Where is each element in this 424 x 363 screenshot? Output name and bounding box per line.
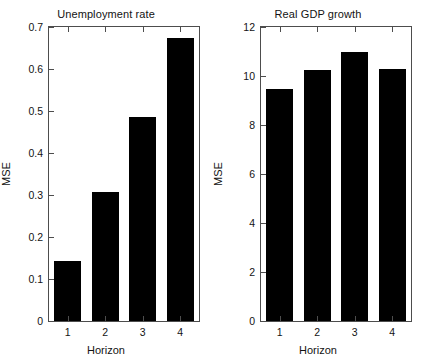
bar [92,192,119,321]
x-axis-tick-mark-top [392,27,393,32]
y-axis-tick-label: 0 [37,316,49,327]
bars-layer [261,27,411,321]
x-axis-tick-mark-top [68,27,69,32]
y-axis-tick-mark [49,27,54,28]
bar [304,70,331,321]
y-axis-tick-label: 0.7 [28,22,49,33]
x-axis-tick-label: 1 [277,321,283,338]
y-axis-tick-label: 6 [249,169,261,180]
y-axis-tick-mark [261,174,266,175]
x-axis-tick-mark-top [280,27,281,32]
y-axis-tick-mark [261,125,266,126]
y-axis-tick-mark [261,272,266,273]
y-axis-tick-mark [49,111,54,112]
x-axis-tick-label: 2 [102,321,108,338]
y-axis-tick-mark [49,153,54,154]
y-axis-tick-label: 4 [249,218,261,229]
x-axis-tick-mark-top [180,27,181,32]
x-axis-tick-label: 3 [352,321,358,338]
y-axis-tick-mark [49,237,54,238]
bar [379,69,406,321]
figure-canvas: Unemployment rate MSE 00.10.20.30.40.50.… [0,0,424,363]
y-axis-tick-label: 0.2 [28,232,49,243]
y-axis-tick-label: 0.5 [28,106,49,117]
bars-layer [49,27,199,321]
y-axis-label: MSE [212,162,224,186]
y-axis-label: MSE [0,162,12,186]
x-axis-tick-mark-top [317,27,318,32]
bar [167,38,194,322]
y-axis-tick-mark [49,321,54,322]
plot-area: 00.10.20.30.40.50.60.71234 [48,26,200,322]
y-axis-tick-label: 0.1 [28,274,49,285]
bar [341,52,368,322]
y-axis-tick-label: 0.3 [28,190,49,201]
y-axis-tick-mark [49,195,54,196]
plot-area: 0246810121234 [260,26,412,322]
x-axis-tick-mark-top [355,27,356,32]
bar [54,261,81,321]
x-axis-tick-label: 1 [65,321,71,338]
bar [266,89,293,321]
y-axis-tick-label: 10 [243,71,261,82]
x-axis-tick-label: 4 [177,321,183,338]
x-axis-label: Horizon [212,344,424,356]
y-axis-tick-label: 0.4 [28,148,49,159]
y-axis-tick-label: 8 [249,120,261,131]
y-axis-tick-label: 0 [249,316,261,327]
x-axis-tick-mark-top [143,27,144,32]
x-axis-tick-label: 4 [389,321,395,338]
y-axis-tick-label: 12 [243,22,261,33]
y-axis-tick-mark [261,76,266,77]
y-axis-tick-label: 0.6 [28,64,49,75]
panel-title: Unemployment rate [0,8,212,21]
y-axis-tick-mark [261,27,266,28]
y-axis-tick-mark [49,69,54,70]
x-axis-tick-label: 2 [314,321,320,338]
y-axis-tick-mark [261,223,266,224]
y-axis-tick-mark [49,279,54,280]
y-axis-tick-mark [261,321,266,322]
panel-title: Real GDP growth [212,8,424,21]
x-axis-tick-label: 3 [140,321,146,338]
y-axis-tick-label: 2 [249,267,261,278]
chart-panel-real-gdp-growth: Real GDP growth MSE 0246810121234 Horizo… [212,0,424,363]
chart-panel-unemployment-rate: Unemployment rate MSE 00.10.20.30.40.50.… [0,0,212,363]
x-axis-label: Horizon [0,344,212,356]
x-axis-tick-mark-top [105,27,106,32]
bar [129,117,156,321]
